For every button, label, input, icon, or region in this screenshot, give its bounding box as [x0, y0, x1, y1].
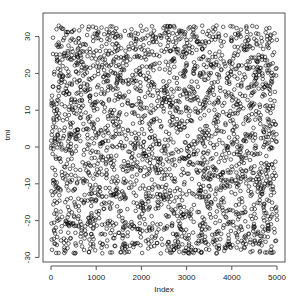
x-tick-label: 1000: [87, 273, 105, 282]
x-axis-label: Index: [154, 285, 174, 294]
y-tick-label: 20: [23, 68, 32, 77]
x-axis: 010002000300040005000: [49, 266, 287, 282]
y-axis-label: tmi: [3, 129, 12, 140]
y-tick-label: 10: [23, 105, 32, 114]
x-tick-label: 4000: [223, 273, 241, 282]
y-tick-label: -20: [23, 214, 32, 226]
y-tick-label: 30: [23, 32, 32, 41]
x-tick-label: 3000: [178, 273, 196, 282]
x-tick-label: 5000: [268, 273, 286, 282]
y-tick-label: -10: [23, 177, 32, 189]
x-tick-label: 0: [49, 273, 54, 282]
data-points: [49, 24, 279, 256]
y-tick-label: -30: [23, 251, 32, 263]
y-axis: -30-20-100102030: [23, 32, 39, 264]
y-tick-label: 0: [23, 144, 32, 149]
scatter-plot: 010002000300040005000 -30-20-100102030 I…: [0, 0, 302, 299]
x-tick-label: 2000: [133, 273, 151, 282]
